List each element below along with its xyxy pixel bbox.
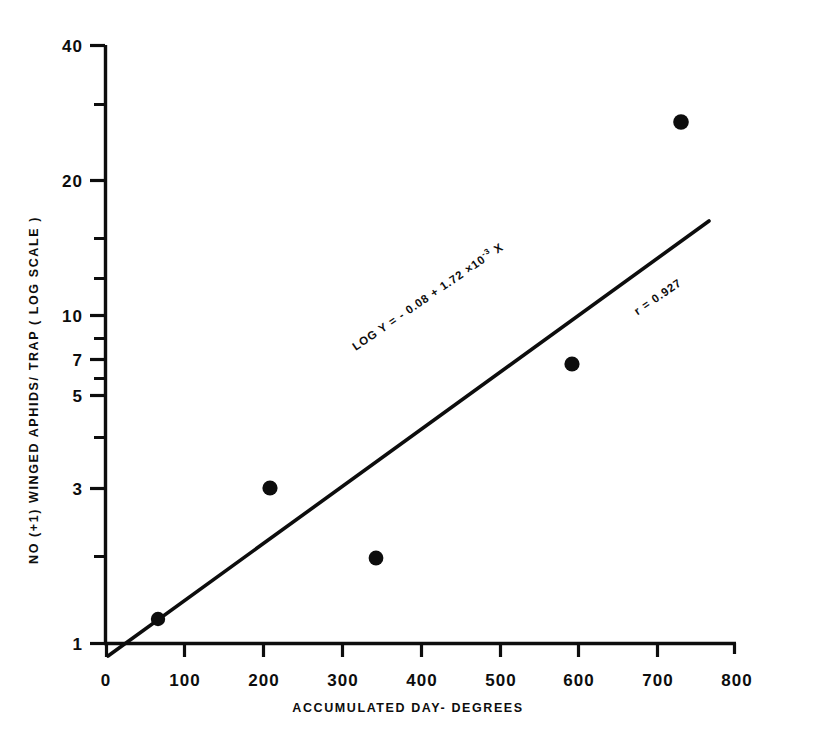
chart-figure: 40 20 10 7 5 3 1 0 100 200 300 400 500	[0, 0, 816, 734]
data-point	[369, 551, 384, 566]
correlation-coefficient: r = 0.927	[632, 276, 684, 317]
y-tick-label-5: 5	[73, 387, 83, 406]
y-axis-title: NO (+1) WINGED APHIDS/ TRAP ( LOG SCALE …	[27, 216, 41, 564]
x-tick-label-300: 300	[327, 671, 358, 690]
data-point	[151, 612, 165, 626]
x-tick-label-700: 700	[642, 671, 673, 690]
svg-text:LOG Y = - 0.08 + 1.72 ×10-3 X: LOG Y = - 0.08 + 1.72 ×10-3 X	[349, 239, 505, 353]
x-axis-ticks	[107, 644, 658, 657]
y-axis-tick-labels: 40 20 10 7 5 3 1	[62, 37, 83, 654]
regression-equation: LOG Y = - 0.08 + 1.72 ×10-3 X	[349, 239, 505, 353]
x-tick-label-100: 100	[169, 671, 200, 690]
x-axis-title: ACCUMULATED DAY- DEGREES	[292, 701, 523, 715]
y-axis-major-ticks	[90, 46, 105, 644]
data-point	[262, 480, 277, 495]
x-tick-label-500: 500	[485, 671, 516, 690]
y-tick-label-10: 10	[62, 307, 83, 326]
x-tick-label-400: 400	[406, 671, 437, 690]
data-point	[673, 114, 689, 130]
regression-equation-main: LOG Y = - 0.08 + 1.72 ×10	[350, 253, 487, 353]
x-tick-label-200: 200	[248, 671, 279, 690]
y-tick-label-1: 1	[73, 635, 83, 654]
x-tick-label-0: 0	[101, 671, 111, 690]
regression-fit-line	[108, 221, 709, 656]
scatter-plot-svg: 40 20 10 7 5 3 1 0 100 200 300 400 500	[0, 0, 816, 734]
x-axis-tick-labels: 0 100 200 300 400 500 600 700 800	[101, 671, 753, 690]
y-tick-label-40: 40	[62, 37, 83, 56]
y-tick-label-20: 20	[62, 172, 83, 191]
y-tick-label-3: 3	[73, 480, 83, 499]
svg-text:r = 0.927: r = 0.927	[632, 276, 684, 317]
x-tick-label-600: 600	[563, 671, 594, 690]
y-tick-label-7: 7	[73, 351, 83, 370]
data-point	[564, 356, 579, 371]
data-points	[151, 114, 689, 626]
x-tick-label-800: 800	[721, 671, 752, 690]
